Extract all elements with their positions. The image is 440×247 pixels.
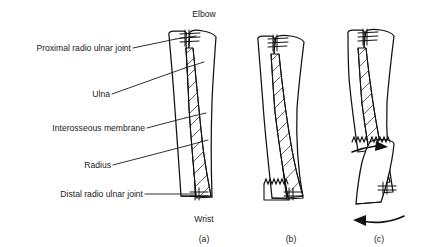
panel-c-illustration bbox=[348, 29, 404, 226]
label-radius: Radius bbox=[84, 160, 111, 170]
label-elbow: Elbow bbox=[192, 9, 216, 19]
panel-a-illustration bbox=[169, 30, 230, 208]
caption-panel-b: (b) bbox=[286, 234, 297, 244]
caption-panel-c: (c) bbox=[374, 234, 384, 244]
label-ulna: Ulna bbox=[92, 89, 110, 99]
label-distal-radio-ulnar-joint: Distal radio ulnar joint bbox=[60, 189, 143, 199]
rotation-arrow-c bbox=[353, 215, 404, 226]
figure-page: Elbow Proximal radio ulnar joint Ulna In… bbox=[0, 0, 440, 247]
leader-radius bbox=[113, 146, 186, 165]
label-interosseous-membrane: Interosseous membrane bbox=[52, 123, 145, 133]
panel-b-illustration bbox=[258, 35, 318, 206]
caption-panel-a: (a) bbox=[199, 234, 210, 244]
label-proximal-radio-ulnar-joint: Proximal radio ulnar joint bbox=[36, 43, 131, 53]
anatomy-figure: Elbow Proximal radio ulnar joint Ulna In… bbox=[0, 0, 440, 247]
label-wrist: Wrist bbox=[194, 214, 214, 224]
